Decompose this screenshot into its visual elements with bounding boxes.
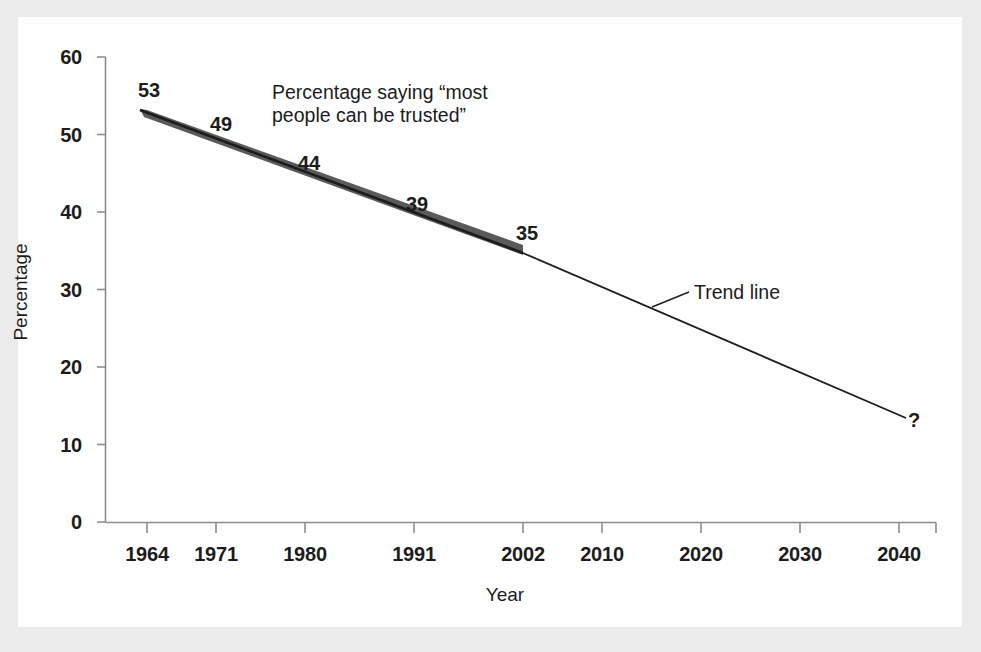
data-label-1980: 44 [298, 152, 320, 175]
x-tick-label-1964: 1964 [125, 543, 169, 566]
x-tick-label-2020: 2020 [679, 543, 723, 566]
x-tick-label-2010: 2010 [580, 543, 624, 566]
x-tick-label-1991: 1991 [392, 543, 436, 566]
x-tick-label-2002: 2002 [501, 543, 545, 566]
data-series-edge [140, 110, 523, 253]
data-label-1971: 49 [210, 113, 232, 136]
projection-unknown-label: ? [908, 409, 920, 432]
y-tick-label-60: 60 [52, 46, 82, 69]
x-tick-label-2040: 2040 [877, 543, 921, 566]
y-axis-title: Percentage [10, 243, 32, 340]
data-label-1964: 53 [138, 79, 160, 102]
series-annotation-text: Percentage saying “most people can be tr… [272, 81, 488, 127]
trend-line-annotation-text: Trend line [694, 281, 780, 304]
x-tick-label-1971: 1971 [194, 543, 238, 566]
y-axis-ticks [97, 57, 106, 522]
y-tick-label-0: 0 [52, 511, 82, 534]
y-tick-label-30: 30 [52, 278, 82, 301]
trend-label-leader [652, 292, 689, 307]
data-label-1991: 39 [406, 193, 428, 216]
x-tick-label-2030: 2030 [778, 543, 822, 566]
chart-figure: 60 50 40 30 20 10 0 1964 1971 1980 1991 … [0, 0, 981, 652]
x-tick-label-1980: 1980 [283, 543, 327, 566]
y-tick-label-40: 40 [52, 201, 82, 224]
x-axis-ticks [147, 523, 936, 534]
y-tick-label-20: 20 [52, 356, 82, 379]
y-tick-label-10: 10 [52, 433, 82, 456]
x-axis-title: Year [486, 584, 524, 606]
trend-line [523, 253, 906, 418]
data-label-2002: 35 [516, 222, 538, 245]
y-tick-label-50: 50 [52, 123, 82, 146]
